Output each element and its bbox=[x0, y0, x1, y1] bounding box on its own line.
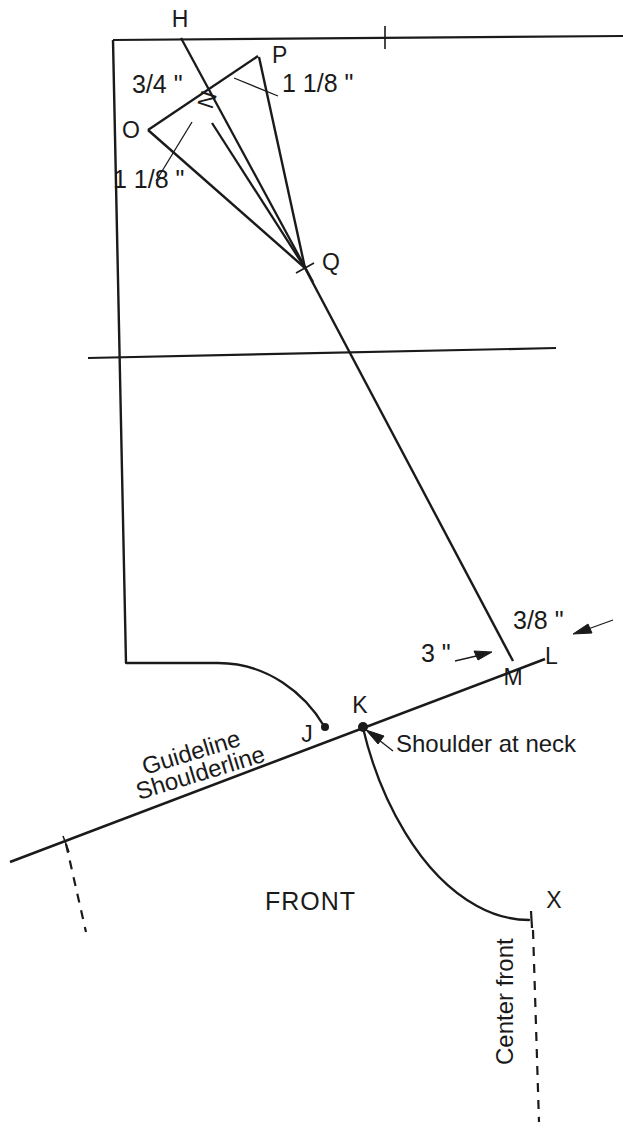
point-label-K: K bbox=[352, 692, 368, 718]
arrow-left-icon bbox=[573, 620, 613, 634]
arrow-pointer-icon bbox=[366, 730, 393, 751]
note-center-front: Center front bbox=[491, 938, 518, 1065]
top-edge-line bbox=[113, 36, 623, 40]
dart-leg-NQ bbox=[212, 123, 305, 268]
shoulderline bbox=[10, 659, 545, 862]
left-guide-tick-mark bbox=[63, 836, 69, 852]
point-label-N: N bbox=[192, 88, 222, 112]
point-label-M: M bbox=[503, 664, 522, 690]
point-label-Q: Q bbox=[322, 249, 340, 275]
center-front-dashed-line bbox=[533, 930, 539, 1122]
point-label-L: L bbox=[545, 643, 558, 669]
dimension-label-one-and-eighth-lower: 1 1/8 " bbox=[113, 165, 184, 193]
center-front-corner-tick bbox=[531, 911, 532, 928]
dimension-label-three-inch: 3 " bbox=[421, 639, 451, 667]
dart-leg-OQ bbox=[148, 130, 305, 268]
leader-line-upper-eighth bbox=[234, 78, 278, 96]
point-label-H: H bbox=[172, 6, 189, 32]
bust-level-line bbox=[88, 348, 556, 358]
point-label-P: P bbox=[272, 42, 287, 68]
dart-line-Q-to-M bbox=[305, 268, 513, 661]
dimension-label-three-quarter: 3/4 " bbox=[132, 70, 183, 98]
arrow-right-icon bbox=[455, 651, 492, 661]
point-label-X: X bbox=[546, 887, 561, 913]
pattern-diagram-root: H P N O Q L M K J X 3/4 " 1 1/8 " 1 1/8 … bbox=[0, 0, 623, 1130]
point-label-O: O bbox=[122, 117, 140, 143]
point-label-J: J bbox=[301, 721, 313, 747]
note-front: FRONT bbox=[265, 887, 356, 915]
pattern-drawing-canvas: H P N O Q L M K J X 3/4 " 1 1/8 " 1 1/8 … bbox=[0, 0, 623, 1130]
dimension-label-one-and-eighth-upper: 1 1/8 " bbox=[282, 69, 353, 97]
left-dashed-guide bbox=[66, 844, 86, 932]
dimension-label-three-eighth: 3/8 " bbox=[513, 606, 564, 634]
armhole-curve bbox=[126, 663, 324, 726]
point-dot-J bbox=[321, 723, 329, 731]
note-shoulder-at-neck: Shoulder at neck bbox=[396, 730, 577, 757]
